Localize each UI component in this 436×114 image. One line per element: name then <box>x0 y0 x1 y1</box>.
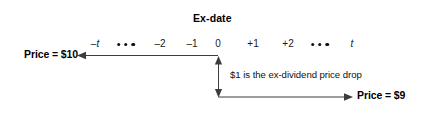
timeline-tick-label: +2 <box>282 39 293 49</box>
price-drop-caption: $1 is the ex-dividend price drop <box>230 70 362 80</box>
timeline-tick-label: –t <box>91 39 99 49</box>
timeline-tick-label: +1 <box>247 39 258 49</box>
timeline-ellipsis-icon <box>117 43 135 46</box>
timeline-tick-label: –2 <box>154 39 165 49</box>
timeline-tick-label: 0 <box>215 39 221 49</box>
price-after-label: Price = $9 <box>357 90 405 101</box>
timeline-tick-label: –1 <box>186 39 197 49</box>
post-exdate-price-arrow <box>219 93 354 100</box>
timeline-ellipsis-icon <box>311 43 329 46</box>
ex-date-title: Ex-date <box>193 13 232 24</box>
ex-dividend-timeline-diagram: Ex-date Price = $10 Price = $9 $1 is the… <box>0 0 436 114</box>
price-before-label: Price = $10 <box>24 49 78 60</box>
timeline-tick-label: t <box>351 39 354 49</box>
price-drop-double-arrow <box>215 56 222 98</box>
pre-exdate-timeline-arrow <box>77 52 218 59</box>
